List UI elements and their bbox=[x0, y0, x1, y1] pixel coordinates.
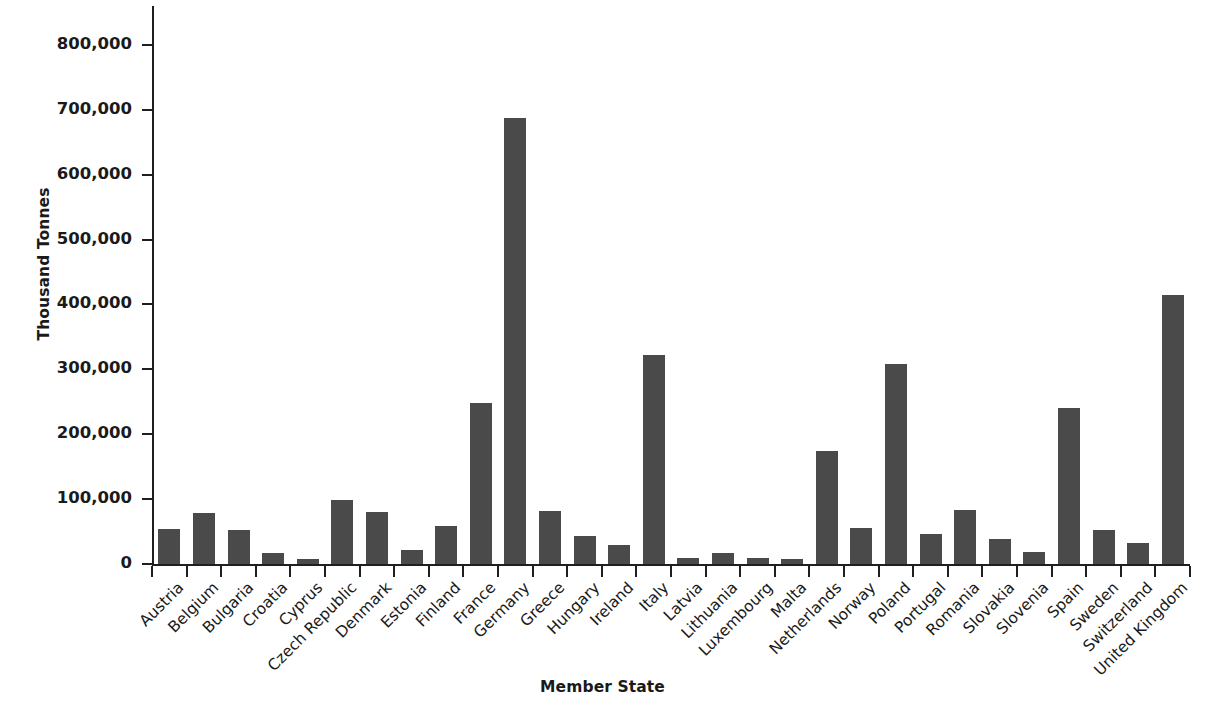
bar bbox=[989, 539, 1011, 564]
bars-layer bbox=[152, 6, 1188, 564]
y-axis-tick-label: 700,000 bbox=[2, 101, 132, 118]
x-axis-tick bbox=[808, 566, 810, 577]
y-axis-tick-label: 300,000 bbox=[2, 360, 132, 377]
bar-chart: Thousand Tonnes 0100,000200,000300,00040… bbox=[0, 0, 1205, 712]
x-axis-tick bbox=[289, 566, 291, 577]
bar bbox=[1093, 530, 1115, 564]
x-axis-tick bbox=[532, 566, 534, 577]
x-axis-tick bbox=[912, 566, 914, 577]
bar bbox=[781, 559, 803, 564]
y-axis-title: Thousand Tonnes bbox=[35, 154, 53, 374]
y-axis-tick-label: 500,000 bbox=[2, 231, 132, 248]
x-axis-tick bbox=[1016, 566, 1018, 577]
bar bbox=[574, 536, 596, 564]
x-axis-title: Member State bbox=[0, 678, 1205, 696]
x-axis-tick bbox=[601, 566, 603, 577]
bar bbox=[920, 534, 942, 564]
bar bbox=[1058, 408, 1080, 564]
bar bbox=[643, 355, 665, 564]
bar bbox=[435, 526, 457, 564]
bar bbox=[297, 559, 319, 564]
bar bbox=[885, 364, 907, 564]
x-axis-tick bbox=[428, 566, 430, 577]
x-axis-tick bbox=[497, 566, 499, 577]
x-axis-tick bbox=[255, 566, 257, 577]
x-axis-tick bbox=[220, 566, 222, 577]
bar bbox=[193, 513, 215, 564]
bar bbox=[1023, 552, 1045, 564]
x-axis-tick bbox=[774, 566, 776, 577]
x-axis-tick bbox=[462, 566, 464, 577]
y-axis-tick-label: 100,000 bbox=[2, 490, 132, 507]
x-axis-tick bbox=[670, 566, 672, 577]
bar bbox=[539, 511, 561, 564]
x-axis-tick bbox=[566, 566, 568, 577]
x-axis-tick bbox=[359, 566, 361, 577]
x-axis-tick bbox=[1051, 566, 1053, 577]
x-axis-tick bbox=[151, 566, 153, 577]
x-axis-tick bbox=[1120, 566, 1122, 577]
x-axis-tick bbox=[947, 566, 949, 577]
bar bbox=[1127, 543, 1149, 564]
bar bbox=[608, 545, 630, 564]
x-axis-tick bbox=[186, 566, 188, 577]
y-axis-tick-label: 200,000 bbox=[2, 425, 132, 442]
bar bbox=[366, 512, 388, 564]
bar bbox=[850, 528, 872, 564]
bar bbox=[677, 558, 699, 564]
y-axis-tick-label: 400,000 bbox=[2, 295, 132, 312]
x-axis-tick bbox=[843, 566, 845, 577]
x-axis-tick bbox=[878, 566, 880, 577]
x-axis-tick bbox=[635, 566, 637, 577]
x-axis-tick bbox=[981, 566, 983, 577]
y-axis-tick-label: 600,000 bbox=[2, 166, 132, 183]
x-axis-tick bbox=[1189, 566, 1191, 577]
bar bbox=[504, 118, 526, 564]
y-axis-tick-label: 800,000 bbox=[2, 36, 132, 53]
x-axis-tick bbox=[739, 566, 741, 577]
bar bbox=[816, 451, 838, 564]
x-axis-tick bbox=[324, 566, 326, 577]
bar bbox=[228, 530, 250, 564]
bar bbox=[1162, 295, 1184, 564]
x-axis-tick bbox=[1154, 566, 1156, 577]
bar bbox=[470, 403, 492, 564]
x-axis-tick bbox=[1085, 566, 1087, 577]
bar bbox=[747, 558, 769, 564]
bar bbox=[401, 550, 423, 564]
bar bbox=[158, 529, 180, 564]
bar bbox=[712, 553, 734, 564]
bar bbox=[954, 510, 976, 565]
bar bbox=[262, 553, 284, 564]
y-axis-tick-label: 0 bbox=[2, 555, 132, 572]
x-axis-tick bbox=[393, 566, 395, 577]
x-axis-tick bbox=[705, 566, 707, 577]
bar bbox=[331, 500, 353, 564]
